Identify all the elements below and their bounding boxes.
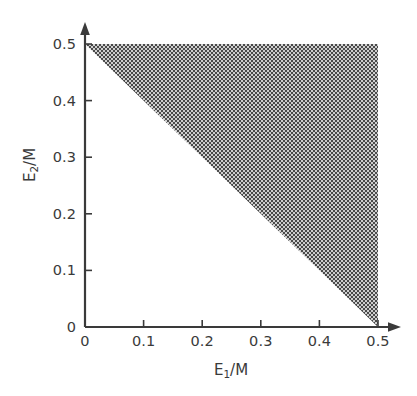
- x-tick-label-0: 0: [80, 333, 89, 349]
- x-axis-title-suffix: /M: [230, 361, 248, 379]
- y-axis-title-suffix: /M: [21, 148, 39, 166]
- y-tick-label-4: 0.4: [53, 93, 76, 109]
- y-axis-title: E2/M: [21, 148, 39, 182]
- y-tick-label-1: 0.1: [53, 262, 76, 278]
- x-axis-title-subscript: 1: [223, 368, 230, 380]
- x-tick-label-4: 0.4: [308, 333, 331, 349]
- y-axis-title-subscript: 2: [28, 166, 40, 173]
- y-tick-label-2: 0.2: [53, 206, 76, 222]
- x-tick-label-5: 0.5: [366, 333, 389, 349]
- kinematic-region-chart: 0 0.1 0.2 0.3 0.4 0.5 0 0.1 0.2 0.3 0.4 …: [0, 0, 417, 396]
- x-tick-label-1: 0.1: [132, 333, 155, 349]
- x-axis-title: E1/M: [214, 361, 248, 379]
- y-tick-label-5: 0.5: [53, 36, 76, 52]
- y-axis-title-base: E: [21, 173, 39, 182]
- x-tick-label-3: 0.3: [249, 333, 272, 349]
- x-tick-label-2: 0.2: [191, 333, 214, 349]
- y-tick-label-0: 0: [67, 319, 76, 335]
- y-tick-label-3: 0.3: [53, 149, 76, 165]
